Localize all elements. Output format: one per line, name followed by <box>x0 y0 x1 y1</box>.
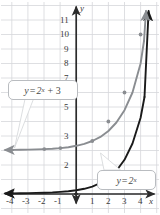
x-tick-label-minus1: -1 <box>54 197 62 206</box>
y-tick-label-2: 2 <box>64 161 69 170</box>
callout-shifted-equals: = <box>29 85 37 96</box>
y-tick-label-5: 5 <box>64 103 69 112</box>
y-tick-label-11: 11 <box>60 16 69 25</box>
x-tick-label-minus3: -3 <box>22 197 30 206</box>
x-axis-label: x <box>149 197 153 206</box>
y-tick-label-8: 8 <box>64 59 69 68</box>
y-tick-label-10: 10 <box>60 30 69 39</box>
y-tick-label-9: 9 <box>64 45 69 54</box>
x-tick-label-minus2: -2 <box>38 197 46 206</box>
x-tick-label-4: 4 <box>138 197 143 206</box>
callout-shifted-tail: + 3 <box>45 85 62 96</box>
callout-y-equals-2-to-the-x[interactable]: y=2x <box>97 170 156 190</box>
callout-base-equals: = <box>121 175 129 186</box>
y-axis-label: y <box>80 4 84 13</box>
x-tick-label-3: 3 <box>122 197 127 206</box>
x-tick-label-minus4: -4 <box>6 197 14 206</box>
y-tick-label-3: 3 <box>64 132 69 141</box>
x-tick-label-1: 1 <box>90 197 95 206</box>
x-tick-label-2: 2 <box>106 197 111 206</box>
callout-pointer-base <box>101 153 121 170</box>
callout-y-equals-2-to-the-x-plus-3[interactable]: y=2x+ 3 <box>8 80 78 100</box>
exponential-functions-graph: 11 10 9 8 7 5 3 2 -4 -3 -2 -1 1 2 3 4 y … <box>0 0 160 215</box>
callout-pointer-shifted <box>15 99 34 148</box>
